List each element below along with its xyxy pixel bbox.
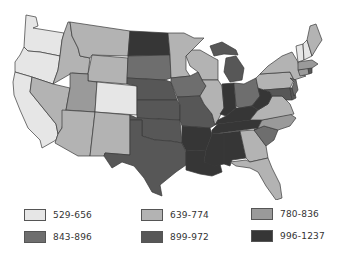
state-WY: [88, 55, 128, 84]
legend-item-4: 843-896: [24, 230, 92, 244]
legend-label: 843-896: [53, 232, 92, 242]
legend-swatch: [141, 231, 163, 243]
legend-label: 529-656: [53, 210, 92, 220]
legend-label: 899-972: [170, 232, 209, 242]
state-MA: [298, 60, 318, 70]
state-PA: [256, 72, 294, 90]
legend-item-5: 899-972: [141, 230, 209, 244]
legend-label: 996-1237: [280, 231, 325, 241]
legend-swatch: [141, 209, 163, 221]
state-FL: [230, 158, 282, 200]
state-SD: [127, 55, 171, 80]
legend: 529-656 639-774 780-836 843-896 899-972 …: [0, 205, 338, 255]
legend-item-6: 996-1237: [251, 229, 325, 243]
legend-item-1: 529-656: [24, 208, 92, 222]
state-WA: [24, 15, 64, 56]
legend-swatch: [24, 231, 46, 243]
legend-swatch: [251, 208, 273, 220]
state-ND: [128, 31, 170, 56]
state-NM: [90, 112, 130, 156]
legend-item-3: 780-836: [251, 207, 319, 221]
legend-item-2: 639-774: [141, 208, 209, 222]
state-VT: [296, 44, 304, 62]
state-KS: [137, 100, 180, 120]
legend-label: 780-836: [280, 209, 319, 219]
legend-swatch: [251, 230, 273, 242]
state-CO: [95, 82, 137, 115]
legend-label: 639-774: [170, 210, 209, 220]
legend-swatch: [24, 209, 46, 221]
state-RI: [308, 68, 312, 74]
state-MT: [70, 22, 130, 58]
us-choropleth-map: [0, 0, 338, 200]
